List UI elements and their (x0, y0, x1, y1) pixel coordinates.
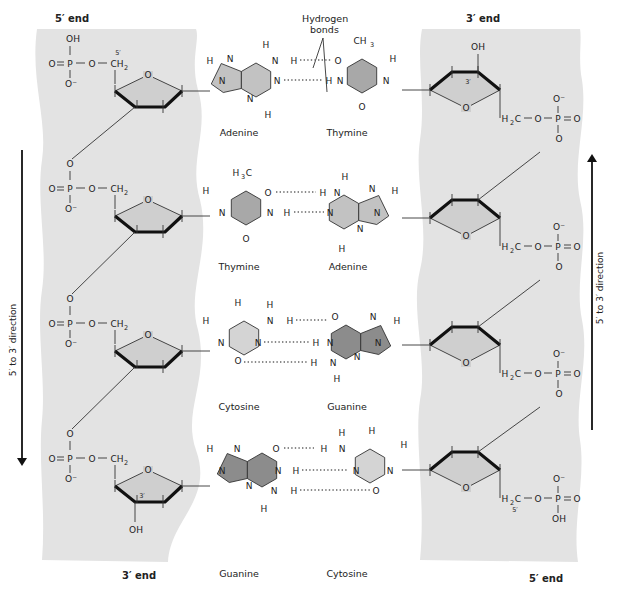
phosphorus-label: P (555, 494, 561, 504)
subscript: 3 (370, 41, 374, 49)
subscript: 2 (510, 247, 514, 255)
ring-oxygen-label: O (462, 358, 469, 368)
phosphorus-label: P (555, 114, 561, 124)
oxygen-label: O (48, 184, 55, 194)
oxygen-minus-label: O⁻ (65, 204, 77, 214)
atom-label: H (287, 316, 294, 326)
oxygen-minus-label: O⁻ (65, 339, 77, 349)
ring-oxygen-label: O (144, 195, 151, 205)
base-label-left-2: Thymine (217, 261, 259, 272)
oxygen-label: O (573, 369, 580, 379)
atom-label: N (219, 466, 226, 476)
atom-label: N (234, 444, 241, 454)
atom-label: H (293, 466, 300, 476)
ch2-label: CH (110, 319, 123, 329)
left-top-end-label: 5′ end (55, 13, 89, 24)
atom-label: N (374, 208, 381, 218)
base-pair-1: NNNNHHNHHONHNOHCH3 (207, 36, 397, 120)
atom-label: N (357, 224, 364, 234)
atom-label: N (267, 316, 274, 326)
oxygen-label: O (534, 369, 541, 379)
atom-label: N (337, 76, 344, 86)
oxygen-label: O (534, 114, 541, 124)
atom-label: O (372, 486, 379, 496)
h2c-label: H (502, 242, 509, 252)
atom-label: O (331, 312, 338, 322)
oxygen-label: O (573, 114, 580, 124)
dna-diagram: 5′ end 3′ end 3′ end 5′ end 5′ to 3′ dir… (0, 0, 617, 589)
atom-label: N (227, 54, 234, 64)
atom-label: H (392, 186, 399, 196)
prime-3-label: 3′ (139, 492, 145, 500)
base-pair-3: NNOHHNHHNHONNNHNHH (203, 298, 401, 384)
atom-label: N (339, 444, 346, 454)
right-direction-label: 5′ to 3′ direction (595, 252, 605, 325)
atom-label: N (353, 466, 360, 476)
atom-label: N (271, 486, 278, 496)
phosphorus-label: P (555, 242, 561, 252)
oxygen-minus-label: O⁻ (65, 79, 77, 89)
subscript: 2 (510, 119, 514, 127)
atom-label: H (320, 188, 327, 198)
phosphorus-label: P (67, 184, 73, 194)
atom-label: N (334, 188, 341, 198)
atom-label: N (387, 466, 394, 476)
atom-label: H (401, 440, 408, 450)
atom-label: H (261, 504, 268, 514)
hydroxyl-label: OH (66, 34, 80, 44)
phosphorus-label: P (67, 319, 73, 329)
atom-label: N (219, 76, 226, 86)
atom-label: N (370, 312, 377, 322)
atom-label: H (235, 298, 242, 308)
oxygen-label: O (88, 454, 95, 464)
subscript: 2 (124, 64, 128, 72)
base-label-right-3: Guanine (327, 401, 367, 412)
ring-oxygen-label: O (144, 330, 151, 340)
left-direction-label: 5′ to 3′ direction (8, 304, 18, 377)
phosphorus-label: P (67, 454, 73, 464)
atom-label: N (274, 76, 281, 86)
atom-label: H (203, 186, 210, 196)
oxygen-label: O (555, 389, 562, 399)
base-label-left-4: Guanine (219, 568, 259, 579)
base-label-left-3: Cytosine (218, 401, 259, 412)
oxygen-label: O (48, 59, 55, 69)
left-bottom-end-label: 3′ end (122, 570, 156, 581)
atom-label: H (390, 54, 397, 64)
atom-label: H (207, 56, 214, 66)
atom-label: H (267, 300, 274, 310)
atom-label: H (321, 444, 328, 454)
atom-label: N (218, 338, 225, 348)
atom-label: H (233, 168, 240, 178)
atom-label: N (247, 94, 254, 104)
ch2-label: CH (110, 184, 123, 194)
atom-label: N (327, 208, 334, 218)
oxygen-label: O (88, 59, 95, 69)
atom-label: H (203, 316, 210, 326)
subscript: 2 (124, 324, 128, 332)
adenine-five-ring (211, 64, 241, 93)
oxygen-label: O (48, 454, 55, 464)
atom-label: H (265, 110, 272, 120)
atom-label: N (330, 358, 337, 368)
oxygen-label: O (555, 134, 562, 144)
right-bottom-end-label: 5′ end (529, 573, 563, 584)
thymine-ring (231, 191, 260, 225)
h2c-label: H (502, 114, 509, 124)
subscript: 3 (241, 173, 245, 181)
base-pair-2: NNOOHHH3CNNNNHHNHH (203, 168, 399, 254)
base-label-left-1: Adenine (220, 127, 259, 138)
atom-label: O (358, 102, 365, 112)
hydroxyl-label: OH (129, 525, 143, 535)
atom-label: N (327, 338, 334, 348)
atom-label: H (369, 426, 376, 436)
atom-label: N (354, 352, 361, 362)
base-label-right-2: Adenine (329, 261, 368, 272)
atom-label: O (242, 234, 249, 244)
oxygen-minus-label: O⁻ (65, 474, 77, 484)
right-top-end-label: 3′ end (466, 13, 500, 24)
atom-label: O (264, 188, 271, 198)
oxygen-label: O (534, 494, 541, 504)
subscript: 2 (124, 189, 128, 197)
oxygen-label: O (534, 242, 541, 252)
